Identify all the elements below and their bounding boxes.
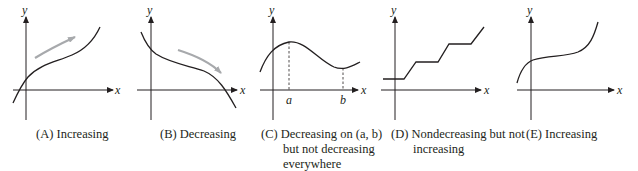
caption-d-line-2: increasing <box>391 142 525 157</box>
x-axis-label: x <box>239 83 246 97</box>
panel-e: x y <box>517 3 623 120</box>
caption-e: (E) Increasing <box>526 127 597 142</box>
y-axis-label: y <box>21 3 28 17</box>
tick-label-a: a <box>286 93 292 107</box>
caption-d-line-1: (D) Nondecreasing but not <box>391 127 525 142</box>
x-axis-label: x <box>616 83 623 97</box>
caption-a-line-1: (A) Increasing <box>36 127 109 141</box>
decreasing-curve <box>141 32 236 108</box>
tick-label-b: b <box>340 93 346 107</box>
x-axis-label: x <box>483 83 490 97</box>
y-axis-label: y <box>268 3 275 17</box>
x-axis-label: x <box>114 83 121 97</box>
panel-a: x y <box>13 3 121 120</box>
curve-with-max-and-min <box>260 42 360 72</box>
caption-b: (B) Decreasing <box>160 127 236 142</box>
direction-arrow-icon <box>35 37 75 58</box>
caption-d: (D) Nondecreasing but not increasing <box>391 127 525 157</box>
panel-b: x y <box>137 3 246 120</box>
caption-b-line-1: (B) Decreasing <box>160 127 236 141</box>
y-axis-label: y <box>146 3 153 17</box>
y-axis-label: y <box>526 3 533 17</box>
caption-c-line-3: everywhere <box>261 157 382 171</box>
staircase-curve <box>383 27 484 79</box>
panel-c: x y a b <box>260 3 367 120</box>
caption-c: (C) Decreasing on (a, b) but not decreas… <box>261 127 382 171</box>
caption-a: (A) Increasing <box>36 127 109 142</box>
y-axis-label: y <box>390 3 397 17</box>
caption-c-line-2: but not decreasing <box>261 142 382 157</box>
x-axis-label: x <box>360 83 367 97</box>
increasing-curve <box>517 22 598 83</box>
caption-e-line-1: (E) Increasing <box>526 127 597 141</box>
panel-d: x y <box>381 3 490 120</box>
caption-c-line-1: (C) Decreasing on (a, b) <box>261 127 382 142</box>
